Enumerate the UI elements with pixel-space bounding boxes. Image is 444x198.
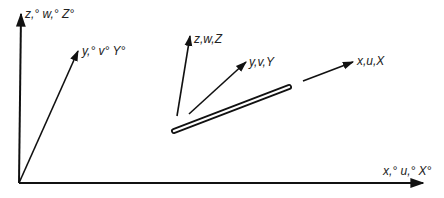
global-z-label: z,° w,° Z° <box>25 8 74 20</box>
global-y-axis <box>19 51 78 183</box>
local-axes <box>177 36 353 116</box>
local-z-label-text: z,w,Z <box>194 32 222 46</box>
local-x-axis <box>303 62 353 81</box>
global-z-axis <box>19 14 21 183</box>
local-x-label: x,u,X <box>357 55 384 67</box>
global-y-label: y,° v° Y° <box>82 45 125 57</box>
local-z-axis <box>177 36 190 116</box>
bar-element <box>174 87 289 131</box>
global-x-label: x,° u,° X° <box>383 165 431 177</box>
global-y-label-text: y,° v° Y° <box>82 44 125 58</box>
global-z-label-text: z,° w,° Z° <box>25 7 74 21</box>
local-z-label: z,w,Z <box>194 33 222 45</box>
local-y-label: y,v,Y <box>249 56 274 68</box>
global-x-label-text: x,° u,° X° <box>383 164 431 178</box>
coordinate-diagram <box>0 0 444 198</box>
local-y-label-text: y,v,Y <box>249 55 274 69</box>
local-x-label-text: x,u,X <box>357 54 384 68</box>
